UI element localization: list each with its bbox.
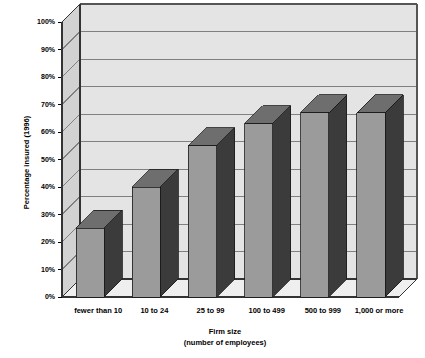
bar-3-side [217,128,235,297]
y-tick-label-80%: 80% [0,73,55,81]
chart-canvas [0,0,425,358]
bar-1-front [76,228,104,297]
bar-1 [76,210,122,297]
x-axis-title-line2: (number of employees) [95,337,355,348]
bar-2 [132,169,178,297]
bar-4 [245,106,291,297]
y-tick-label-90%: 90% [0,46,55,54]
y-tick-label-100%: 100% [0,18,55,26]
y-tick-label-10%: 10% [0,266,55,274]
y-tick-label-20%: 20% [0,238,55,246]
bar-6 [357,95,403,297]
bar-2-front [132,187,160,297]
bar-5-side [329,95,347,297]
bar-chart-figure: 0%10%20%30%40%50%60%70%80%90%100% fewer … [0,0,425,358]
x-axis-title: Firm size (number of employees) [95,326,355,348]
x-axis-title-line1: Firm size [95,326,355,337]
bar-3-front [188,146,216,297]
bar-6-side [385,95,403,297]
bar-4-front [245,124,273,297]
y-tick-label-0%: 0% [0,293,55,301]
bar-6-front [357,113,385,297]
bar-5 [301,95,347,297]
bar-4-side [273,106,291,297]
y-axis-title: Percentage insured (1996) [22,88,31,238]
bar-3 [188,128,234,297]
bar-2-side [160,169,178,297]
x-tick-label-5: 1,000 or more [339,306,419,315]
bar-5-front [301,113,329,297]
